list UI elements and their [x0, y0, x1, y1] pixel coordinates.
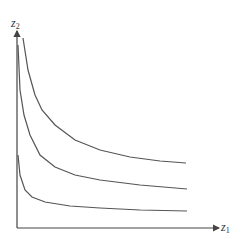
diagram-svg	[0, 0, 239, 239]
indifference-curves-diagram: z2 z1	[0, 0, 239, 239]
lower-curve	[18, 155, 187, 211]
y-axis-label: z2	[11, 17, 20, 33]
x-label-sub: 1	[226, 226, 230, 235]
y-label-sub: 2	[16, 22, 20, 31]
upper-curve	[23, 38, 186, 163]
middle-curve	[18, 45, 187, 189]
x-axis-label: z1	[221, 221, 230, 237]
